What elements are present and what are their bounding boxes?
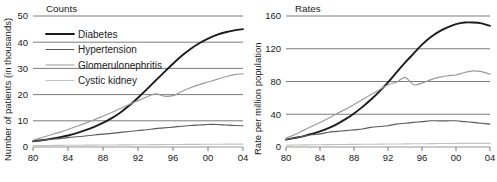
rates-yticklabels: 04080120160	[265, 10, 281, 152]
y-tick-label: 0	[23, 141, 28, 152]
panel-rates: 04080120160 80848892960004 Rates Rate pe…	[250, 0, 497, 182]
x-tick-label: 04	[238, 152, 249, 163]
counts-xticklabels: 80848892960004	[28, 152, 249, 163]
rates-xticklabels: 80848892960004	[281, 152, 496, 163]
legend-label-diabetes: Diabetes	[78, 29, 117, 40]
rates-gridlines	[286, 16, 490, 114]
y-tick-label: 30	[17, 63, 28, 74]
y-tick-label: 40	[270, 109, 281, 120]
x-tick-label: 00	[451, 152, 462, 163]
y-tick-label: 10	[17, 115, 28, 126]
x-tick-label: 96	[417, 152, 428, 163]
x-tick-label: 04	[485, 152, 496, 163]
legend-label-glomerulonephritis: Glomerulonephritis	[78, 60, 162, 71]
legend-label-cystic-kidney: Cystic kidney	[78, 75, 137, 86]
counts-panel-title: Counts	[46, 3, 77, 14]
x-tick-label: 80	[28, 152, 39, 163]
x-tick-label: 88	[98, 152, 109, 163]
series-line-diabetes	[286, 22, 490, 139]
x-tick-label: 84	[315, 152, 326, 163]
x-tick-label: 84	[63, 152, 74, 163]
y-tick-label: 80	[270, 76, 281, 87]
x-tick-label: 80	[281, 152, 292, 163]
y-tick-label: 0	[276, 141, 281, 152]
legend-label-hypertension: Hypertension	[78, 44, 137, 55]
figure-two-panel-line-charts: 01020304050 80848892960004 Counts Number…	[0, 0, 497, 182]
counts-series-lines	[33, 29, 243, 146]
x-tick-label: 92	[133, 152, 144, 163]
y-tick-label: 120	[265, 43, 281, 54]
counts-y-axis-label: Number of patients (in thousands)	[2, 18, 13, 161]
x-tick-label: 88	[349, 152, 360, 163]
counts-legend: DiabetesHypertensionGlomerulonephritisCy…	[46, 29, 162, 87]
series-line-hypertension	[33, 124, 243, 141]
rates-y-axis-label: Rate per million population	[252, 43, 263, 155]
y-tick-label: 50	[17, 10, 28, 21]
rates-xaxis	[286, 147, 490, 151]
rates-chart-svg: 04080120160 80848892960004 Rates Rate pe…	[250, 0, 497, 182]
counts-yticklabels: 01020304050	[17, 10, 28, 152]
y-tick-label: 40	[17, 37, 28, 48]
panel-counts: 01020304050 80848892960004 Counts Number…	[0, 0, 250, 182]
y-tick-label: 160	[265, 10, 281, 21]
x-tick-label: 92	[383, 152, 394, 163]
rates-panel-title: Rates	[295, 3, 321, 14]
x-tick-label: 96	[168, 152, 179, 163]
series-line-cystic-kidney	[286, 143, 490, 145]
y-tick-label: 20	[17, 89, 28, 100]
x-tick-label: 00	[203, 152, 214, 163]
rates-series-lines	[286, 22, 490, 145]
counts-chart-svg: 01020304050 80848892960004 Counts Number…	[0, 0, 250, 182]
counts-xaxis	[33, 147, 243, 151]
series-line-cystic-kidney	[33, 144, 243, 146]
